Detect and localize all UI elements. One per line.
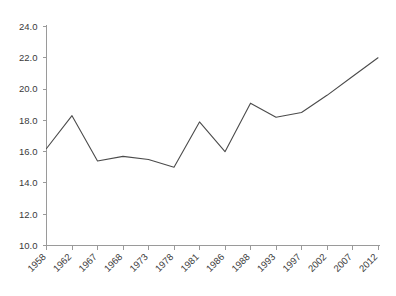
y-axis-tick-label: 12.0	[19, 209, 38, 220]
y-axis-tick-label: 10.0	[19, 240, 38, 251]
chart-background	[0, 0, 396, 296]
y-axis-tick-label: 18.0	[19, 115, 38, 126]
chart-canvas: 24.022.020.018.016.014.012.010.0 1958196…	[0, 0, 396, 296]
y-axis-tick-label: 16.0	[19, 146, 38, 157]
y-axis-tick-label: 20.0	[19, 83, 38, 94]
y-axis-tick-label: 24.0	[19, 21, 38, 32]
y-axis-tick-label: 14.0	[19, 177, 38, 188]
line-chart: 24.022.020.018.016.014.012.010.0 1958196…	[0, 0, 396, 296]
y-axis-tick-label: 22.0	[19, 52, 38, 63]
